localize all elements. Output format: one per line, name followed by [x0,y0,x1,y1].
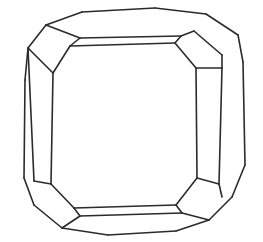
polyhedron-line-drawing: Truncated cube crystal form [0,0,263,242]
figure-root: Truncated cube crystal form [0,0,263,242]
facet-layer [24,8,245,235]
edge-silhouette-left [24,80,25,178]
edge-front-right [196,68,197,178]
facet-right-band [196,68,222,184]
